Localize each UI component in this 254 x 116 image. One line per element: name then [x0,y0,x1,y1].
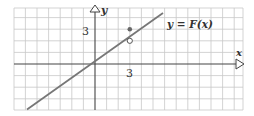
y-tick-label: 3 [82,25,89,38]
x-axis-label: x [235,47,243,58]
y-axis-arrow-icon [90,5,100,12]
function-graph: y x 3 3 y = F(x) [0,0,254,116]
filled-point [128,27,133,32]
curve-label: y = F(x) [166,18,213,30]
y-axis-label: y [100,4,109,17]
open-point-hole [127,38,132,43]
x-tick-label: 3 [126,67,133,80]
